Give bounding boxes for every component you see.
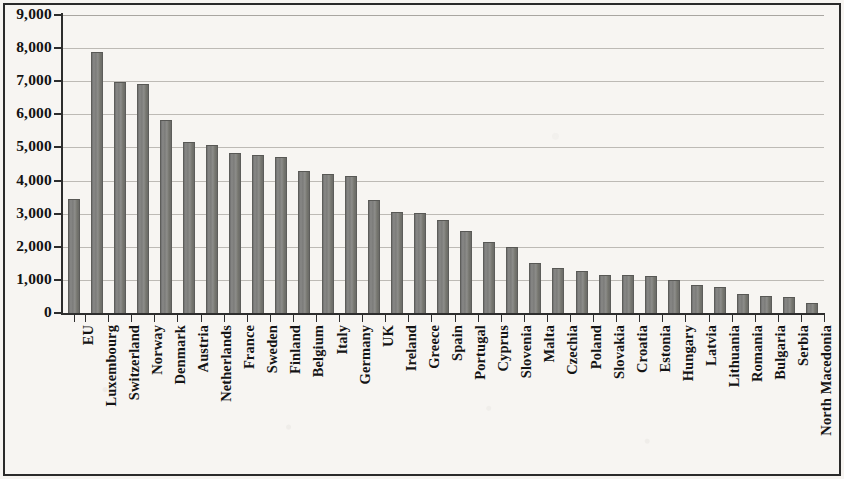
- x-tick-label: Czechia: [564, 325, 581, 375]
- bar: [414, 213, 426, 313]
- bar: [137, 84, 149, 313]
- x-tick-label: Croatia: [634, 325, 651, 373]
- bar: [691, 285, 703, 313]
- x-tick-label: UK: [380, 325, 397, 347]
- bar: [391, 212, 403, 313]
- bar: [437, 220, 449, 313]
- x-tick-label: Germany: [357, 325, 374, 385]
- bar: [645, 276, 657, 313]
- bar: [460, 231, 472, 313]
- y-tick-label: 5,000: [16, 137, 52, 155]
- x-tick-label: Greece: [426, 325, 443, 369]
- bar: [714, 287, 726, 313]
- x-tick-label: Slovenia: [518, 325, 535, 378]
- x-tick-label: Lithuania: [726, 325, 743, 387]
- x-tick-label: Italy: [334, 325, 351, 355]
- bar: [322, 174, 334, 313]
- y-tick-label: 2,000: [16, 237, 52, 255]
- bar: [622, 275, 634, 313]
- bar: [806, 303, 818, 313]
- bar: [506, 247, 518, 313]
- y-tick-label: 1,000: [16, 270, 52, 288]
- x-tick-label: Estonia: [657, 325, 674, 372]
- bar: [252, 155, 264, 313]
- bar: [160, 120, 172, 313]
- y-tick-label: 6,000: [16, 104, 52, 122]
- x-tick-label: Slovakia: [611, 325, 628, 379]
- x-tick-label: Poland: [588, 325, 605, 369]
- x-tick-label: Hungary: [680, 325, 697, 381]
- bar: [668, 280, 680, 313]
- x-tick-label: Cyprus: [495, 325, 512, 372]
- bar: [737, 294, 749, 313]
- x-tick-label: Latvia: [703, 325, 720, 366]
- x-tick-label: Serbia: [795, 325, 812, 366]
- bar: [183, 142, 195, 313]
- x-tick-label: Romania: [749, 325, 766, 382]
- y-tick-label: 8,000: [16, 38, 52, 56]
- x-tick-label: Bulgaria: [772, 325, 789, 380]
- bar: [552, 268, 564, 313]
- x-tick-label: Ireland: [403, 325, 420, 371]
- x-tick-label: EU: [80, 325, 97, 345]
- y-tick-label: 3,000: [16, 204, 52, 222]
- x-tick-label: Malta: [541, 325, 558, 363]
- x-axis-line: [61, 313, 825, 315]
- x-tick-label: Luxembourg: [103, 325, 120, 407]
- plot-area: [62, 15, 824, 313]
- x-tick-label: Norway: [149, 325, 166, 375]
- y-tick-label: 9,000: [16, 5, 52, 23]
- bar: [576, 271, 588, 313]
- bar: [529, 263, 541, 313]
- bar: [599, 275, 611, 313]
- y-tick-label: 7,000: [16, 71, 52, 89]
- x-tick-label: Sweden: [264, 325, 281, 373]
- bar: [229, 153, 241, 313]
- x-tick-label: Netherlands: [218, 325, 235, 402]
- bar: [206, 145, 218, 313]
- bar: [760, 296, 772, 313]
- x-tick-label: Belgium: [310, 325, 327, 377]
- x-tick-label: Finland: [287, 325, 304, 374]
- x-tick-label: Denmark: [172, 325, 189, 385]
- y-tick-label: 0: [44, 303, 52, 321]
- bar: [345, 176, 357, 313]
- x-tick-label: Austria: [195, 325, 212, 372]
- bar: [114, 82, 126, 313]
- y-axis-labels: 9,0008,0007,0006,0005,0004,0003,0002,000…: [0, 0, 52, 479]
- bar: [91, 52, 103, 313]
- x-tick-label: Spain: [449, 325, 466, 361]
- x-tick-label: Switzerland: [126, 325, 143, 400]
- bar: [783, 297, 795, 313]
- x-tick-label: France: [241, 325, 258, 369]
- x-tick-label: Portugal: [472, 325, 489, 380]
- bar: [68, 199, 80, 313]
- chart-figure: 9,0008,0007,0006,0005,0004,0003,0002,000…: [0, 0, 844, 479]
- bar: [368, 200, 380, 313]
- bar: [275, 157, 287, 313]
- y-tick-label: 4,000: [16, 171, 52, 189]
- x-tick-label: North Macedonia: [818, 325, 835, 436]
- bar: [298, 171, 310, 313]
- bar: [483, 242, 495, 313]
